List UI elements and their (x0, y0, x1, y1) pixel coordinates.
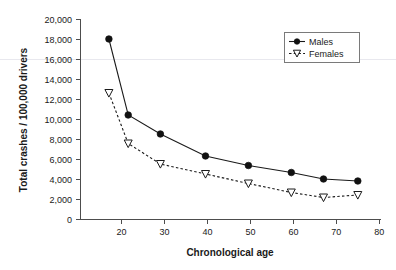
series-females (105, 90, 362, 202)
x-tick-label-20: 20 (117, 227, 127, 237)
males-point-67 (320, 176, 327, 183)
legend-entry-females[interactable]: Females (289, 49, 344, 59)
y-axis-ticks: 0 2,000 4,000 6,000 8,000 10,000 12,000 … (44, 15, 80, 225)
x-tick-label-30: 30 (160, 227, 170, 237)
females-point-21 (124, 140, 132, 148)
x-tick-label-70: 70 (331, 227, 341, 237)
y-tick-label-14000: 14,000 (44, 75, 72, 85)
x-tick-label-80: 80 (374, 227, 384, 237)
males-point-21 (125, 112, 132, 119)
y-tick-label-12000: 12,000 (44, 95, 72, 105)
y-axis-title: Total crashes / 100,000 drivers (18, 47, 29, 192)
males-point-17 (106, 36, 113, 43)
females-line (109, 93, 358, 198)
y-tick-label-20000: 20,000 (44, 15, 72, 25)
x-axis-title: Chronological age (186, 247, 274, 258)
males-point-75 (355, 178, 362, 185)
legend-marker-filled-circle-icon (294, 39, 300, 45)
x-axis-ticks: 20 30 40 50 60 70 80 (117, 220, 385, 238)
y-tick-label-16000: 16,000 (44, 55, 72, 65)
females-point-60 (287, 189, 295, 197)
males-point-40 (202, 153, 209, 160)
males-point-29 (157, 131, 164, 138)
females-point-17 (105, 90, 113, 98)
females-point-75 (354, 192, 362, 200)
chart-container: 0 2,000 4,000 6,000 8,000 10,000 12,000 … (0, 0, 396, 270)
legend-label-females: Females (309, 49, 344, 59)
y-tick-label-18000: 18,000 (44, 35, 72, 45)
females-point-67 (320, 194, 328, 202)
y-tick-label-4000: 4,000 (49, 175, 72, 185)
males-point-60 (288, 169, 295, 176)
chart-canvas: 0 2,000 4,000 6,000 8,000 10,000 12,000 … (0, 0, 396, 270)
x-tick-label-50: 50 (245, 227, 255, 237)
y-tick-label-0: 0 (67, 215, 72, 225)
y-tick-label-2000: 2,000 (49, 195, 72, 205)
legend-label-males: Males (309, 37, 334, 47)
x-tick-label-60: 60 (288, 227, 298, 237)
x-tick-label-40: 40 (202, 227, 212, 237)
males-point-50 (245, 162, 252, 169)
y-tick-label-10000: 10,000 (44, 115, 72, 125)
chart-legend[interactable]: Males Females (285, 33, 360, 63)
y-tick-label-8000: 8,000 (49, 135, 72, 145)
y-tick-label-6000: 6,000 (49, 155, 72, 165)
